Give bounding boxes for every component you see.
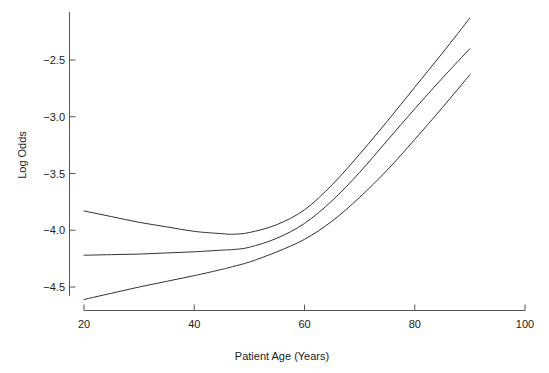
- x-axis-tick-label: 20: [78, 318, 90, 330]
- y-axis-tick-label: −4.5: [43, 281, 65, 293]
- log-odds-chart-figure: −2.5−3.0−3.5−4.0−4.5 20406080100 Log Odd…: [0, 0, 549, 373]
- y-axis-tick-label: −3.0: [43, 111, 65, 123]
- y-axis-ticks: [70, 60, 76, 287]
- x-axis-tick-label: 100: [516, 318, 534, 330]
- axis-lines: [70, 12, 526, 311]
- y-axis-tick-label: −2.5: [43, 54, 65, 66]
- y-axis-title: Log Odds: [16, 131, 28, 179]
- x-axis-ticks: [84, 305, 525, 311]
- y-axis-tick-label: −4.0: [43, 224, 65, 236]
- x-axis-tick-label: 40: [188, 318, 200, 330]
- x-axis-title: Patient Age (Years): [235, 350, 329, 362]
- upper-confidence-band: [84, 18, 470, 234]
- lower-confidence-band: [84, 75, 470, 300]
- data-series-group: [84, 18, 470, 299]
- x-axis-tick-label: 80: [409, 318, 421, 330]
- y-axis-tick-label: −3.5: [43, 168, 65, 180]
- x-axis-tick-label: 60: [298, 318, 310, 330]
